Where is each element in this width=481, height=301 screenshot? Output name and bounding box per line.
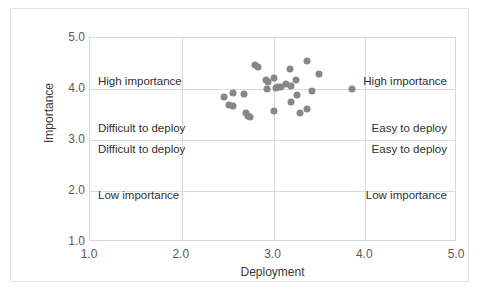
quadrant-label-line: High importance [98,74,185,90]
x-axis-tick-label: 3.0 [264,247,281,261]
quadrant-label-bottom-left: Difficult to deploy Low importance [98,111,185,235]
quadrant-label-bottom-right: Easy to deploy Low importance [366,111,447,235]
x-axis-tick-label: 4.0 [356,247,373,261]
quadrant-label-line: Easy to deploy [366,142,447,158]
y-axis-tick-label: 5.0 [55,30,85,44]
data-point [287,98,294,105]
quadrant-label-line: High importance [363,74,447,90]
data-point [241,90,248,97]
quadrant-label-line: Difficult to deploy [98,142,185,158]
x-axis-tick-labels: 1.02.03.04.05.0 [89,247,456,263]
y-axis-tick-label: 1.0 [55,234,85,248]
quadrant-label-line: Low importance [366,188,447,204]
data-point [304,57,311,64]
data-point [220,93,227,100]
data-point [230,89,237,96]
data-point [246,114,253,121]
data-point [293,77,300,84]
data-point [297,110,304,117]
data-point [349,86,356,93]
data-point [316,71,323,78]
y-axis-tick-label: 3.0 [55,132,85,146]
data-point [230,102,237,109]
data-point [254,63,261,70]
data-point [287,65,294,72]
plot-area: High importance Difficult to deploy High… [89,37,456,241]
x-axis-tick-label: 2.0 [172,247,189,261]
data-point [303,105,310,112]
data-point [287,82,294,89]
scatter-chart-figure: Importance 1.02.03.04.05.0 High importan… [0,0,481,301]
gridline-vertical [274,38,275,240]
data-point [309,88,316,95]
data-point [294,92,301,99]
x-axis-title: Deployment [89,265,456,279]
data-point [271,74,278,81]
y-axis-tick-label: 4.0 [55,81,85,95]
quadrant-label-line: Low importance [98,188,185,204]
x-axis-tick-label: 1.0 [81,247,98,261]
x-axis-tick-label: 5.0 [448,247,465,261]
chart-frame: Importance 1.02.03.04.05.0 High importan… [10,8,469,282]
y-axis-tick-labels: 1.02.03.04.05.0 [51,37,85,241]
y-axis-tick-label: 2.0 [55,183,85,197]
data-point [264,86,271,93]
data-point [270,108,277,115]
